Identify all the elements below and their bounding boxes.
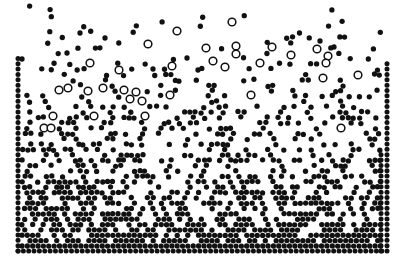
granular-simulation-figure: Two-dimensional molecular-dynamics snaps…: [0, 0, 403, 268]
particle-scatter-canvas: [0, 0, 403, 268]
